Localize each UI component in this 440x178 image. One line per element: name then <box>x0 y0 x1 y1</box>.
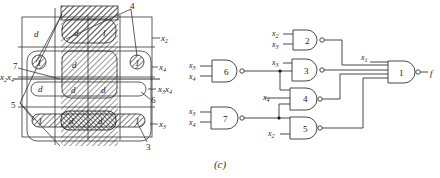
gate-2-label: 2 <box>305 36 310 46</box>
cell-r3c3: 1 <box>135 116 140 126</box>
cell-r2c2: d <box>101 85 106 95</box>
cell-r3c1: d <box>69 116 74 126</box>
left-label-x2x4: x2x4 <box>0 72 14 83</box>
callout-5: 5 <box>11 100 16 110</box>
input-x3-g7: x3 <box>188 107 196 117</box>
input-x3-g6: x3 <box>188 61 196 71</box>
row-label-x2: x2 <box>160 33 168 44</box>
input-x3-g3: x3 <box>271 58 279 68</box>
group-top <box>62 19 116 43</box>
cell-r1c3: 1 <box>135 58 140 68</box>
cell-r0c0: d <box>34 29 39 39</box>
figure-caption: (c) <box>0 158 440 170</box>
row-label-x3: x3 <box>158 119 166 130</box>
gate-7-label: 7 <box>223 114 228 124</box>
logic-circuit <box>200 30 428 139</box>
input-x2-g2: x2 <box>271 29 279 39</box>
input-x1-g1: x1 <box>360 53 368 63</box>
figure: d d 1 1 d 1 d d d 1 d d 1 x2 x4 x3x4 x3 … <box>0 0 440 178</box>
cell-r2c0: d <box>38 84 43 94</box>
cell-r3c2: d <box>98 116 103 126</box>
cell-r1c1: d <box>72 60 77 70</box>
cell-r1c0: 1 <box>37 58 42 68</box>
callout-7: 7 <box>13 61 18 71</box>
gate-6-label: 6 <box>224 67 229 77</box>
cell-r0c2: 1 <box>102 28 107 38</box>
input-x3-g2: x3 <box>271 40 279 50</box>
gate-4-label: 4 <box>303 94 308 104</box>
input-x2-g5: x2 <box>267 129 275 139</box>
row-label-x3x4: x3x4 <box>157 84 172 95</box>
gate-1-label: 1 <box>399 68 404 78</box>
callout-3: 3 <box>146 142 151 152</box>
gate-5-label: 5 <box>303 124 308 134</box>
cell-r0c1: d <box>74 28 79 38</box>
input-x4-g6: x4 <box>188 72 196 82</box>
input-x4-g7: x4 <box>188 118 196 128</box>
input-x4-g4: x4 <box>262 93 270 103</box>
callout-6: 6 <box>151 95 156 105</box>
cell-r2c1: d <box>71 85 76 95</box>
gate-3-label: 3 <box>304 66 309 76</box>
cell-r3c0: 1 <box>38 116 43 126</box>
callout-4: 4 <box>130 1 135 11</box>
output-f-label: f <box>430 68 434 78</box>
row-label-x4: x4 <box>158 62 166 73</box>
